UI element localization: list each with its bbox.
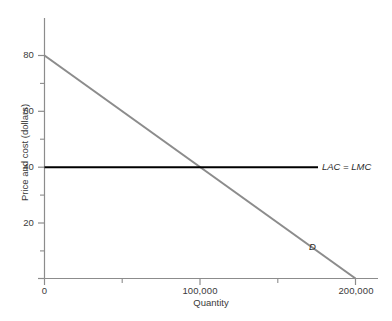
- lac-lmc-series-label: LAC = LMC: [322, 161, 371, 172]
- y-axis-title: Price and cost (dollars): [19, 83, 30, 223]
- x-axis-title: Quantity: [44, 297, 378, 308]
- y-tick-label-80: 80: [0, 49, 34, 60]
- economics-chart-figure: 80 60 40 20 0 100,000 200,000 Price and …: [0, 0, 392, 321]
- demand-series-label: D: [309, 241, 316, 252]
- x-tick-label-100000: 100,000: [165, 285, 235, 296]
- origin-tick-label-0: 0: [30, 285, 59, 296]
- y-axis-major-ticks: [38, 56, 45, 279]
- x-tick-label-200000: 200,000: [321, 285, 391, 296]
